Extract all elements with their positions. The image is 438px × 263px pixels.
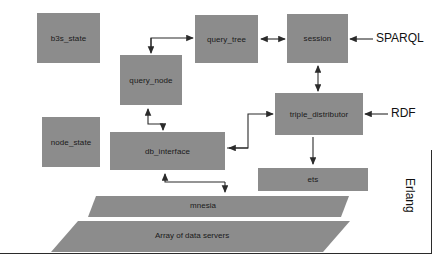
edge-query_node-query_tree <box>151 38 193 51</box>
node-triple_distributor[interactable]: triple_distributor <box>275 93 363 135</box>
external-label-sparql: SPARQL <box>376 31 424 45</box>
architecture-diagram: b3s_state query_tree session query_node … <box>0 0 438 263</box>
node-label: db_interface <box>145 147 190 156</box>
edge-mnesia-db_interface <box>165 174 225 182</box>
slab-label-array-of-data-servers: Array of data servers <box>142 231 242 240</box>
node-query_tree[interactable]: query_tree <box>195 15 258 63</box>
external-label-rdf: RDF <box>391 106 416 120</box>
node-label: session <box>304 34 332 43</box>
node-label: b3s_state <box>51 34 87 43</box>
node-label: node_state <box>51 138 92 147</box>
slab-label-mnesia: mnesia <box>173 201 233 210</box>
edge-db_interface-triple_distributor <box>227 114 273 148</box>
node-node_state[interactable]: node_state <box>42 117 100 167</box>
node-db_interface[interactable]: db_interface <box>110 132 225 170</box>
node-query_node[interactable]: query_node <box>120 55 182 105</box>
edge-db_interface-query_node <box>148 109 163 124</box>
node-b3s_state[interactable]: b3s_state <box>37 13 100 63</box>
erlang-frame-label: Erlang <box>403 178 417 213</box>
node-label: triple_distributor <box>290 110 349 119</box>
node-ets[interactable]: ets <box>258 168 368 191</box>
node-session[interactable]: session <box>287 14 348 63</box>
node-label: query_node <box>129 76 172 85</box>
node-label: ets <box>308 175 319 184</box>
node-label: query_tree <box>207 35 246 44</box>
